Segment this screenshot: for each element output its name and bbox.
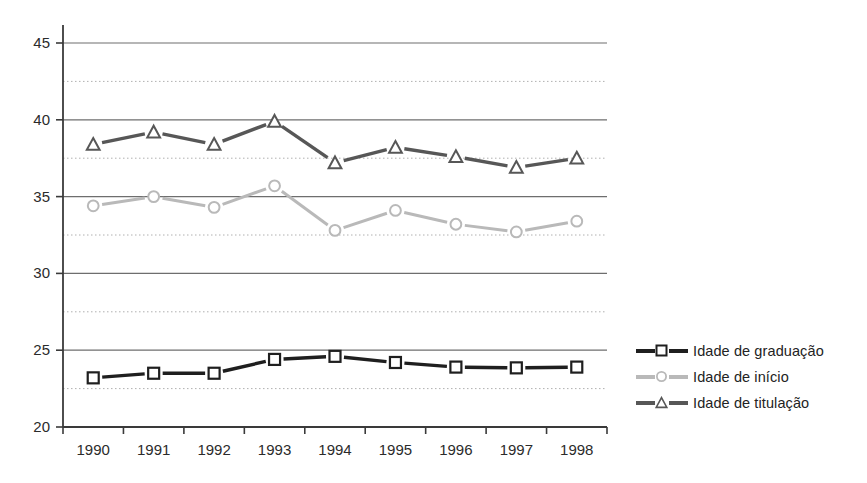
square-marker-icon [655, 344, 668, 357]
legend-line-right-segment [669, 401, 688, 405]
series-segment [404, 363, 446, 366]
series-segment [102, 134, 145, 143]
data-point-triangle [268, 115, 281, 127]
data-point-triangle [449, 150, 462, 162]
circle-marker-icon [655, 370, 668, 383]
series-segment [344, 150, 387, 161]
data-point-circle [269, 180, 280, 191]
series-triangle [87, 115, 583, 173]
series-square [88, 351, 583, 384]
y-tick-label: 20 [33, 418, 50, 435]
series-segment [465, 225, 508, 230]
data-point-triangle [208, 138, 221, 150]
legend-line-left-segment [636, 349, 655, 353]
series-segment [525, 367, 567, 368]
y-tick-label: 40 [33, 111, 50, 128]
legend-label-inicio: Idade de início [688, 369, 789, 385]
chart-container: 202530354045 199019911992199319941995199… [0, 0, 867, 483]
data-point-circle [88, 200, 99, 211]
data-point-triangle [510, 161, 523, 173]
x-tick-label: 1991 [137, 441, 170, 458]
data-point-circle [450, 219, 461, 230]
legend-swatch-triangle [636, 395, 688, 411]
major-gridlines [63, 43, 607, 350]
data-point-square [148, 368, 159, 379]
series-segment [525, 160, 568, 167]
legend-label-graduacao: Idade de graduação [688, 343, 824, 359]
legend-item-titulacao[interactable]: Idade de titulação [636, 390, 861, 416]
data-point-square [209, 368, 220, 379]
y-tick-label: 25 [33, 341, 50, 358]
y-tick-label: 30 [33, 264, 50, 281]
data-point-circle [511, 227, 522, 238]
x-tick-label: 1995 [379, 441, 412, 458]
x-tick-label: 1996 [439, 441, 472, 458]
data-point-circle [390, 205, 401, 216]
y-axis-tick-labels: 202530354045 [33, 34, 50, 435]
data-point-square [390, 357, 401, 368]
data-point-triangle [147, 126, 160, 138]
data-point-square [269, 354, 280, 365]
legend-line-right-segment [669, 349, 688, 353]
x-axis-ticks [63, 427, 607, 434]
data-point-circle [209, 202, 220, 213]
data-point-square [88, 372, 99, 383]
series-segment [525, 223, 568, 231]
chart-legend: Idade de graduação Idade de início [636, 338, 861, 416]
series-circle [88, 180, 582, 237]
series-segment [223, 125, 267, 142]
y-axis-ticks [56, 43, 63, 427]
triangle-marker-icon [655, 396, 668, 409]
series-segment [284, 357, 326, 359]
data-point-circle [330, 225, 341, 236]
x-tick-label: 1997 [500, 441, 533, 458]
y-tick-label: 45 [33, 34, 50, 51]
series-segment [404, 149, 447, 156]
series-segment [404, 212, 447, 222]
x-tick-label: 1990 [77, 441, 110, 458]
series-segment [282, 126, 328, 157]
series-segment [344, 213, 387, 227]
series-segment [465, 158, 508, 166]
legend-label-titulacao: Idade de titulação [688, 395, 809, 411]
x-axis-tick-labels: 199019911992199319941995199619971998 [77, 441, 594, 458]
series-segment [163, 198, 206, 206]
data-point-circle [571, 216, 582, 227]
x-tick-label: 1998 [560, 441, 593, 458]
series-segment [223, 361, 266, 371]
y-tick-label: 35 [33, 188, 50, 205]
data-point-square [571, 362, 582, 373]
x-tick-label: 1993 [258, 441, 291, 458]
series-segment [162, 134, 205, 143]
data-point-square [450, 362, 461, 373]
x-tick-label: 1994 [318, 441, 351, 458]
data-point-circle [148, 191, 159, 202]
x-tick-label: 1992 [197, 441, 230, 458]
legend-swatch-circle [636, 369, 688, 385]
series-segment [344, 357, 387, 361]
legend-line-right-segment [669, 375, 688, 379]
legend-item-inicio[interactable]: Idade de início [636, 364, 861, 390]
series-segment [102, 198, 145, 205]
legend-line-left-segment [636, 375, 655, 379]
data-point-triangle [87, 138, 100, 150]
legend-item-graduacao[interactable]: Idade de graduação [636, 338, 861, 364]
legend-swatch-square [636, 343, 688, 359]
data-series-layer [87, 115, 583, 383]
data-point-square [330, 351, 341, 362]
series-segment [102, 374, 144, 377]
legend-line-left-segment [636, 401, 655, 405]
series-segment [465, 367, 507, 368]
data-point-triangle [389, 141, 402, 153]
data-point-square [511, 362, 522, 373]
